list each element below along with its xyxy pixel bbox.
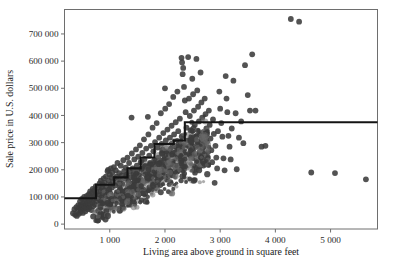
data-point [191, 178, 197, 184]
data-point [167, 159, 173, 165]
data-point [152, 169, 156, 173]
data-point [163, 176, 167, 180]
scatter-plot-figure: 0100 000200 000300 000400 000500 000600 … [0, 0, 394, 273]
data-point [101, 189, 105, 193]
data-point [129, 115, 135, 121]
data-point [187, 113, 193, 119]
data-point [108, 192, 113, 197]
data-point [128, 185, 133, 190]
data-point [90, 213, 96, 219]
data-point [145, 114, 151, 120]
data-point [173, 170, 177, 174]
data-point [126, 160, 132, 166]
data-point [93, 210, 96, 213]
data-point [182, 173, 186, 177]
data-point [227, 144, 233, 150]
data-point [186, 96, 192, 102]
data-point [182, 150, 186, 154]
y-tick-label: 300 000 [29, 138, 59, 148]
data-point [205, 163, 209, 167]
data-point [109, 202, 113, 206]
chart-canvas: 0100 000200 000300 000400 000500 000600 … [0, 0, 394, 273]
data-point [198, 180, 202, 184]
data-point [175, 151, 178, 154]
data-point [150, 125, 156, 131]
data-point [197, 147, 203, 153]
data-point [166, 101, 172, 107]
data-point [183, 164, 188, 169]
data-point [159, 167, 165, 173]
data-point [184, 180, 188, 184]
data-point [117, 190, 120, 193]
data-point [229, 126, 235, 132]
x-tick-label: 5 000 [320, 235, 341, 245]
y-tick-label: 200 000 [29, 165, 59, 175]
data-point [221, 155, 227, 161]
data-point [188, 167, 194, 173]
data-point [185, 145, 189, 149]
data-point [118, 163, 124, 169]
data-point [206, 147, 210, 151]
data-point [181, 84, 187, 90]
data-point [177, 116, 183, 122]
data-point [161, 182, 165, 186]
data-point [179, 60, 185, 66]
data-point [332, 170, 338, 176]
data-point [171, 187, 175, 191]
data-point [363, 176, 369, 182]
data-point [173, 163, 179, 169]
data-point [202, 180, 205, 183]
x-tick-label: 1 000 [99, 235, 120, 245]
x-axis-title: Living area above ground in square feet [143, 246, 299, 257]
data-point [213, 155, 219, 161]
data-point [194, 88, 200, 94]
data-point [145, 200, 150, 205]
data-point [217, 106, 223, 112]
data-point [213, 143, 219, 149]
data-point [204, 171, 210, 177]
data-point [101, 216, 105, 220]
data-point [169, 183, 174, 188]
data-point [236, 135, 242, 141]
data-point [163, 187, 167, 191]
data-point [167, 179, 171, 183]
data-point [169, 192, 173, 196]
data-point [247, 108, 253, 114]
data-point [112, 210, 116, 214]
data-point [308, 170, 314, 176]
data-point [147, 178, 151, 182]
data-point [156, 161, 162, 167]
data-point [263, 143, 269, 149]
data-point [223, 73, 229, 79]
data-point [157, 172, 162, 177]
data-point [131, 204, 137, 210]
data-point [226, 133, 232, 139]
x-tick-label: 2 000 [155, 235, 176, 245]
data-point [194, 56, 200, 62]
data-point [118, 182, 122, 186]
data-point [158, 110, 164, 116]
data-point [132, 173, 136, 177]
y-tick-label: 100 000 [29, 192, 59, 202]
data-point [138, 183, 143, 188]
data-point [240, 140, 246, 146]
data-point [121, 207, 126, 212]
data-point [98, 211, 101, 214]
y-tick-label: 500 000 [29, 83, 59, 93]
data-point [188, 155, 194, 161]
data-point [198, 70, 204, 76]
data-point [120, 189, 124, 193]
data-point [149, 162, 152, 165]
data-point [203, 114, 206, 117]
data-point [165, 150, 169, 154]
data-point [162, 85, 168, 91]
data-point [180, 71, 186, 77]
data-point [288, 16, 294, 22]
data-point [215, 128, 221, 134]
data-point [204, 141, 209, 146]
data-point [206, 129, 210, 133]
data-point [122, 195, 126, 199]
data-point [206, 108, 212, 114]
data-point [118, 195, 121, 198]
y-tick-label: 600 000 [29, 56, 59, 66]
